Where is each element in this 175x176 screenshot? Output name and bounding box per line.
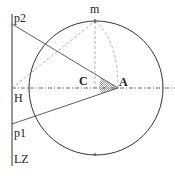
label-m: m [90, 2, 100, 16]
line-p2-a [12, 24, 118, 88]
label-a: A [119, 75, 128, 89]
geometry-diagram: p2 m C A H p1 LZ [0, 0, 175, 176]
label-p1: p1 [14, 126, 26, 140]
dashed-arc-m-a [95, 21, 118, 88]
label-c: C [79, 74, 88, 88]
label-lz: LZ [14, 152, 29, 166]
label-p2: p2 [14, 11, 26, 25]
label-h: H [14, 91, 23, 105]
